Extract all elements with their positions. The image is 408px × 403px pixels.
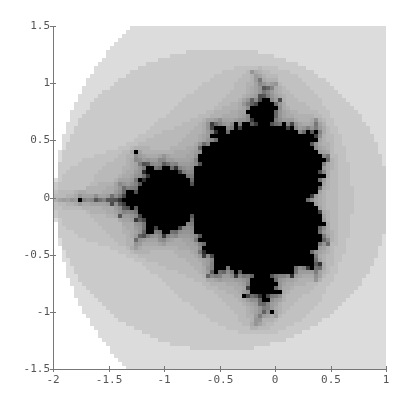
- y-tick: [50, 198, 56, 199]
- x-tick: [331, 366, 332, 372]
- y-tick: [50, 83, 56, 84]
- y-tick: [50, 26, 56, 27]
- x-tick: [275, 366, 276, 372]
- x-tick-label: -1: [157, 373, 170, 386]
- x-tick: [386, 366, 387, 372]
- y-tick: [50, 369, 56, 370]
- y-tick-label: 0: [43, 191, 50, 204]
- y-tick-label: 1.5: [30, 19, 50, 32]
- x-tick: [220, 366, 221, 372]
- mandelbrot-plot: [0, 0, 408, 403]
- x-tick-label: -1.5: [96, 373, 123, 386]
- x-tick-label: 0.5: [321, 373, 341, 386]
- y-tick-label: -1: [37, 305, 50, 318]
- y-tick: [50, 140, 56, 141]
- x-tick: [164, 366, 165, 372]
- y-tick-label: -0.5: [24, 248, 51, 261]
- y-tick-label: -1.5: [24, 362, 51, 375]
- x-tick-label: -0.5: [207, 373, 234, 386]
- y-tick-label: 0.5: [30, 133, 50, 146]
- y-tick: [50, 312, 56, 313]
- y-tick: [50, 255, 56, 256]
- x-tick-label: 1: [383, 373, 390, 386]
- y-tick-label: 1: [43, 76, 50, 89]
- x-tick: [109, 366, 110, 372]
- x-tick-label: 0: [272, 373, 279, 386]
